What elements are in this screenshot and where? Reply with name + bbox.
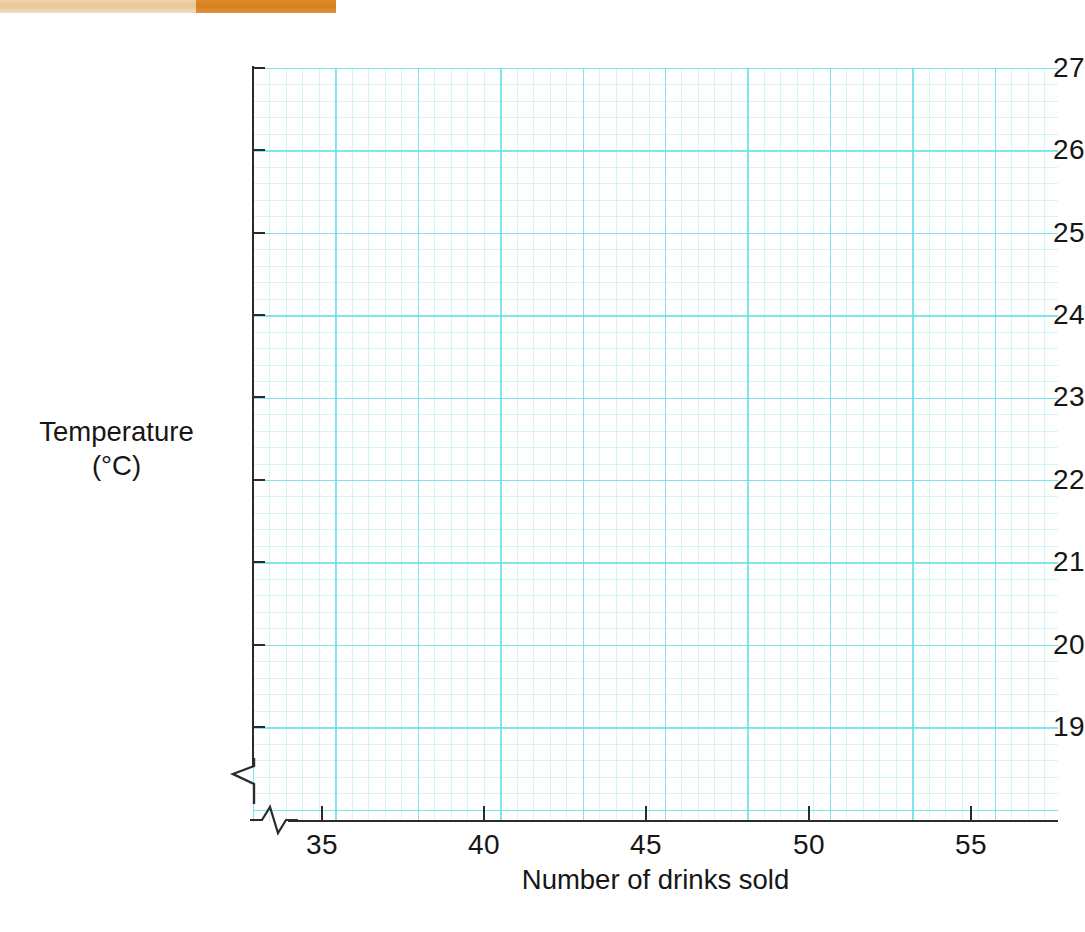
x-tick-label-40: 40 xyxy=(439,830,529,860)
x-tick-label-55: 55 xyxy=(926,830,1016,860)
y-tick-label-21: 21 xyxy=(875,548,1085,576)
x-tick-label-35: 35 xyxy=(277,830,367,860)
y-tick-22 xyxy=(252,479,265,481)
x-tick-40 xyxy=(483,806,485,821)
x-tick-35 xyxy=(321,806,323,821)
y-tick-label-26: 26 xyxy=(875,136,1085,164)
y-tick-23 xyxy=(252,396,265,398)
y-tick-label-25: 25 xyxy=(875,219,1085,247)
x-tick-55 xyxy=(970,806,972,821)
y-tick-26 xyxy=(252,149,265,151)
y-tick-label-24: 24 xyxy=(875,301,1085,329)
x-tick-50 xyxy=(808,806,810,821)
y-tick-19 xyxy=(252,726,265,728)
scatter-graph-figure: 27 26 25 24 23 22 21 20 19 35 40 45 50 5… xyxy=(0,0,1085,932)
y-tick-label-23: 23 xyxy=(875,383,1085,411)
plot-area-grid xyxy=(253,68,1058,822)
y-axis-line xyxy=(252,66,254,766)
y-tick-21 xyxy=(252,561,265,563)
x-axis-line xyxy=(288,820,1058,822)
y-axis-title-unit: (°C) xyxy=(14,449,219,483)
x-tick-label-50: 50 xyxy=(764,830,854,860)
y-axis-title: Temperature (°C) xyxy=(14,415,219,483)
y-tick-25 xyxy=(252,232,265,234)
x-tick-label-45: 45 xyxy=(601,830,691,860)
y-tick-label-20: 20 xyxy=(875,631,1085,659)
y-tick-label-27: 27 xyxy=(875,54,1085,82)
y-tick-27 xyxy=(252,67,265,69)
y-axis-title-text: Temperature xyxy=(39,416,193,447)
grid-overlay xyxy=(253,68,1058,822)
y-tick-label-19: 19 xyxy=(875,713,1085,741)
y-tick-20 xyxy=(252,644,265,646)
y-tick-24 xyxy=(252,314,265,316)
x-tick-45 xyxy=(645,806,647,821)
y-tick-label-22: 22 xyxy=(875,466,1085,494)
x-axis-title: Number of drinks sold xyxy=(253,864,1058,896)
